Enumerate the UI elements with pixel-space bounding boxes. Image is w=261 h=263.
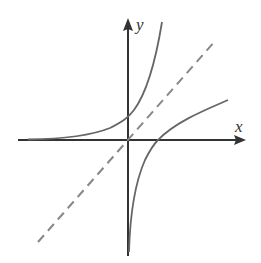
exponential-curve: [28, 22, 162, 140]
function-graph: y x: [0, 0, 261, 263]
y-axis-label: y: [134, 15, 144, 34]
x-axis-label: x: [234, 117, 243, 136]
logarithm-curve: [129, 100, 228, 252]
